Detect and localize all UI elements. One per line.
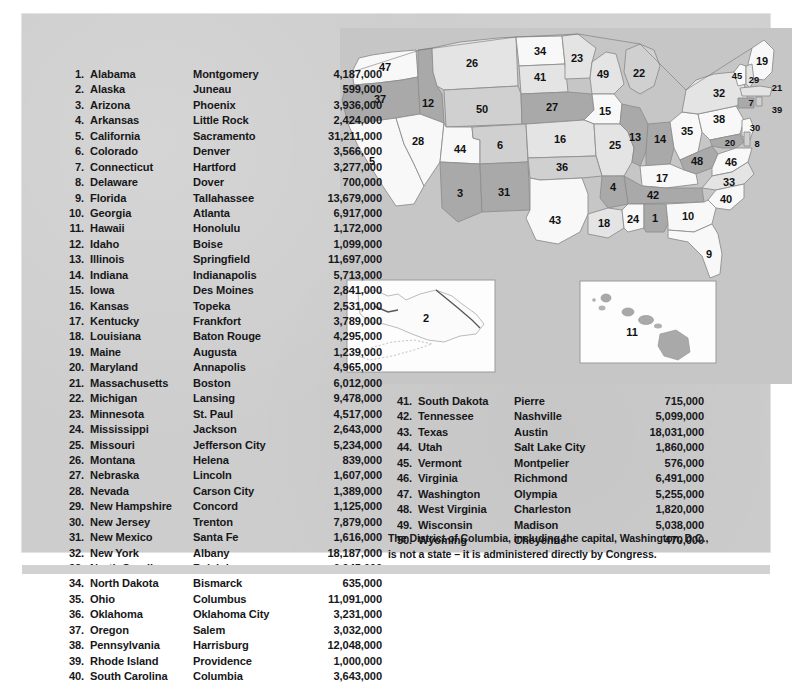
table-row: 18.LouisianaBaton Rouge4,295,000 <box>58 329 400 344</box>
cell-num: 26. <box>58 453 90 468</box>
cell-capital: Santa Fe <box>193 530 303 545</box>
table-row: 35.OhioColumbus11,091,000 <box>58 592 400 607</box>
cell-state: Massachusetts <box>90 376 193 391</box>
cell-num: 44. <box>388 440 418 455</box>
map-label-3: 3 <box>457 187 463 199</box>
hawaii-island-oahu-small <box>599 306 606 311</box>
table-row: 22.MichiganLansing9,478,000 <box>58 391 400 406</box>
table-left-body: 1.AlabamaMontgomery4,187,0002.AlaskaJune… <box>58 67 400 685</box>
alaska-inset-label: 2 <box>423 312 429 324</box>
cell-state: Hawaii <box>90 221 193 236</box>
cell-capital: Tallahassee <box>193 191 303 206</box>
table-row: 24.MississippiJackson2,643,000 <box>58 422 400 437</box>
cell-capital: Jefferson City <box>193 438 303 453</box>
map-label-4: 4 <box>610 181 617 193</box>
table-row: 26.MontanaHelena839,000 <box>58 453 400 468</box>
cell-num: 4. <box>58 113 90 128</box>
state-shape-delaware <box>744 132 750 146</box>
cell-population: 9,478,000 <box>303 391 382 406</box>
cell-num: 23. <box>58 407 90 422</box>
table-row: 44.UtahSalt Lake City1,860,000 <box>388 440 704 455</box>
map-label-7: 7 <box>748 97 753 108</box>
map-label-50: 50 <box>476 103 488 115</box>
cell-population: 1,616,000 <box>303 530 382 545</box>
table-row: 31.New MexicoSanta Fe1,616,000 <box>58 530 400 545</box>
cell-population: 18,031,000 <box>624 425 704 440</box>
cell-state: Indiana <box>90 268 193 283</box>
table-row: 21.MassachusettsBoston6,012,000 <box>58 376 400 391</box>
cell-population: 11,697,000 <box>303 252 382 267</box>
cell-population: 3,032,000 <box>303 623 382 638</box>
cell-population: 1,125,000 <box>303 499 382 514</box>
cell-capital: Frankfort <box>193 314 303 329</box>
cell-capital: Jackson <box>193 422 303 437</box>
cell-num: 22. <box>58 391 90 406</box>
cell-state: Maine <box>90 345 193 360</box>
cell-capital: Salem <box>193 623 303 638</box>
cell-state: Kansas <box>90 299 193 314</box>
cell-state: South Carolina <box>90 669 193 684</box>
cell-population: 3,643,000 <box>303 669 382 684</box>
cell-capital: Dover <box>193 175 303 190</box>
cell-num: 7. <box>58 160 90 175</box>
map-label-16: 16 <box>554 133 566 145</box>
table-row: 48.West VirginiaCharleston1,820,000 <box>388 502 704 517</box>
cell-state: South Dakota <box>418 394 514 409</box>
table-row: 11.HawaiiHonolulu1,172,000 <box>58 221 400 236</box>
map-label-13: 13 <box>629 131 641 143</box>
map-label-9: 9 <box>706 248 712 260</box>
map-label-20: 20 <box>725 137 735 148</box>
cell-state: Florida <box>90 191 193 206</box>
map-label-1: 1 <box>652 212 658 224</box>
cell-state: Nevada <box>90 484 193 499</box>
table-row: 3.ArizonaPhoenix3,936,000 <box>58 98 400 113</box>
map-label-48: 48 <box>691 155 703 167</box>
cell-num: 1. <box>58 67 90 82</box>
cell-num: 14. <box>58 268 90 283</box>
cell-population: 5,234,000 <box>303 438 382 453</box>
cell-capital: Springfield <box>193 252 303 267</box>
cell-state: Nebraska <box>90 468 193 483</box>
cell-num: 18. <box>58 329 90 344</box>
cell-capital: Baton Rouge <box>193 329 303 344</box>
state-shape-rhode-island <box>756 97 762 106</box>
cell-population: 2,424,000 <box>303 113 382 128</box>
cell-population: 5,713,000 <box>303 268 382 283</box>
cell-num: 29. <box>58 499 90 514</box>
cell-population: 4,965,000 <box>303 360 382 375</box>
cell-capital: Indianapolis <box>193 268 303 283</box>
map-label-33: 33 <box>723 176 735 188</box>
cell-num: 48. <box>388 502 418 517</box>
table-row: 20.MarylandAnnapolis4,965,000 <box>58 360 400 375</box>
cell-capital: Charleston <box>514 502 624 517</box>
cell-population: 1,000,000 <box>303 654 382 669</box>
cell-population: 1,389,000 <box>303 484 382 499</box>
map-label-40: 40 <box>720 193 732 205</box>
cell-capital: Oklahoma City <box>193 607 303 622</box>
map-label-46: 46 <box>725 156 737 168</box>
map-label-28: 28 <box>412 135 424 147</box>
cell-population: 18,187,000 <box>303 546 382 561</box>
table-row: 43.TexasAustin18,031,000 <box>388 425 704 440</box>
cell-num: 2. <box>58 82 90 97</box>
table-row: 40.South CarolinaColumbia3,643,000 <box>58 669 400 684</box>
scanned-page-panel: .s { stroke:#8f8f8f; stroke-width:.9; st… <box>22 14 770 552</box>
cell-state: Maryland <box>90 360 193 375</box>
cell-state: Louisiana <box>90 329 193 344</box>
table-row: 25.MissouriJefferson City5,234,000 <box>58 438 400 453</box>
cell-capital: Columbus <box>193 592 303 607</box>
cell-population: 1,239,000 <box>303 345 382 360</box>
cell-state: Pennsylvania <box>90 638 193 653</box>
cell-state: Montana <box>90 453 193 468</box>
cell-capital: St. Paul <box>193 407 303 422</box>
map-label-39: 39 <box>772 104 782 115</box>
cell-capital: Boston <box>193 376 303 391</box>
cell-state: Illinois <box>90 252 193 267</box>
cell-state: Connecticut <box>90 160 193 175</box>
map-label-8: 8 <box>754 138 759 149</box>
cell-population: 31,211,000 <box>303 129 382 144</box>
cell-population: 12,048,000 <box>303 638 382 653</box>
cell-state: Oklahoma <box>90 607 193 622</box>
table-row: 47.WashingtonOlympia5,255,000 <box>388 487 704 502</box>
cell-state: Mississippi <box>90 422 193 437</box>
